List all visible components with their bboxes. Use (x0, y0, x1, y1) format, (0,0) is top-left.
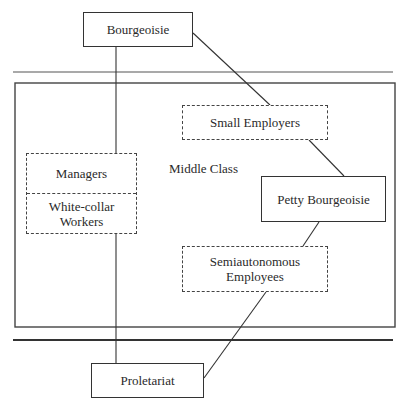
edge-petty-semiautonomous (303, 222, 319, 246)
node-label: Semiautonomous Employees (207, 254, 303, 284)
node-label: Small Employers (210, 115, 300, 130)
node-label: Managers (56, 166, 107, 181)
node-small-employers: Small Employers (182, 105, 328, 140)
node-managers-whitecollar: Managers White-collar Workers (26, 153, 137, 234)
node-label: Bourgeoisie (107, 22, 170, 37)
region-label-middle-class: Middle Class (169, 161, 238, 177)
node-label: Petty Bourgeoisie (277, 192, 370, 207)
node-proletariat: Proletariat (91, 363, 204, 398)
node-petty-bourgeoisie: Petty Bourgeoisie (261, 176, 386, 222)
node-label: White-collar Workers (39, 199, 124, 229)
edge-small-employers-petty (309, 140, 344, 176)
node-semiautonomous: Semiautonomous Employees (182, 246, 328, 292)
node-managers: Managers (27, 154, 136, 193)
node-bourgeoisie: Bourgeoisie (83, 12, 193, 47)
edge-bourgeoisie-small-employers (193, 33, 270, 105)
node-white-collar: White-collar Workers (27, 193, 136, 233)
edge-semiautonomous-proletariat (204, 292, 266, 378)
node-label: Proletariat (120, 373, 174, 388)
